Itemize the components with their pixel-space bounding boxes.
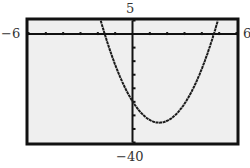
ymin-label: −40 xyxy=(116,150,143,163)
graph-screen xyxy=(0,0,250,168)
ymax-label: 5 xyxy=(126,2,134,15)
xmin-label: −6 xyxy=(1,27,20,40)
xmax-label: 6 xyxy=(243,27,250,40)
